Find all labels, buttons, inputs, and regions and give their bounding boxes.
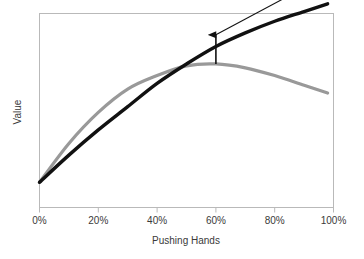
series-line-gray-curve bbox=[40, 64, 328, 182]
chart-svg: 0%20%40%60%80%100% Pushing Hands Value bbox=[0, 0, 364, 259]
y-axis-title: Value bbox=[12, 99, 23, 124]
x-axis-tick-labels: 0%20%40%60%80%100% bbox=[32, 215, 346, 226]
plot-frame bbox=[40, 14, 334, 208]
x-axis-tick-label: 0% bbox=[32, 215, 47, 226]
x-axis-tick-label: 100% bbox=[321, 215, 347, 226]
x-axis-tick-label: 60% bbox=[206, 215, 226, 226]
series-group bbox=[40, 4, 328, 182]
x-axis-tick-label: 80% bbox=[265, 215, 285, 226]
series-line-black-curve bbox=[40, 4, 328, 182]
x-axis-tick-label: 40% bbox=[147, 215, 167, 226]
chart-container: 0%20%40%60%80%100% Pushing Hands Value bbox=[0, 0, 364, 259]
x-axis-title: Pushing Hands bbox=[152, 235, 220, 246]
x-axis-ticks bbox=[40, 208, 334, 213]
x-axis-tick-label: 20% bbox=[88, 215, 108, 226]
annotation-trend-arrow-diagonal bbox=[216, 0, 325, 35]
